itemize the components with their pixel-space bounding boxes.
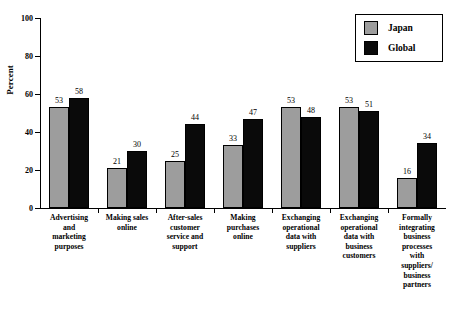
bar-japan-5[interactable] [339, 107, 359, 208]
x-axis-category-line: partners [389, 280, 445, 290]
x-axis-category-line: Exchanging [331, 213, 387, 223]
bar-value-label: 47 [249, 108, 257, 117]
x-axis-category-label: Exchangingoperationaldata withsuppliers [273, 213, 329, 251]
x-axis-category-label: Exchangingoperationaldata withbusinesscu… [331, 213, 387, 261]
bar-japan-4[interactable] [281, 107, 301, 208]
bar-japan-3[interactable] [223, 145, 243, 208]
x-axis-category-line: operational [273, 223, 329, 233]
bar-value-label: 21 [113, 157, 121, 166]
bar-value-label: 53 [345, 96, 353, 105]
y-axis-tick [35, 18, 40, 19]
bar-global-4[interactable] [301, 117, 321, 208]
x-axis-category-line: business [389, 232, 445, 242]
y-axis-tick [35, 132, 40, 133]
bar-value-label: 30 [133, 140, 141, 149]
y-axis-title: Percent [5, 40, 15, 120]
legend-swatch-japan-icon [364, 21, 378, 35]
y-axis-tick [35, 170, 40, 171]
bar-global-3[interactable] [243, 119, 263, 208]
legend-item-global: Global [364, 41, 415, 55]
y-axis-line [40, 18, 41, 208]
bar-japan-1[interactable] [107, 168, 127, 208]
x-axis-category-line: purchases [215, 223, 271, 233]
x-axis-category-line: Making sales [99, 213, 155, 223]
x-axis-category-line: processes [389, 242, 445, 252]
x-axis-category-line: suppliers/ [389, 261, 445, 271]
x-axis-category-line: online [99, 223, 155, 233]
y-axis-tick-label: 60 [25, 90, 33, 99]
bar-value-label: 51 [365, 100, 373, 109]
legend-label-japan: Japan [388, 23, 413, 33]
y-axis-tick [35, 208, 40, 209]
bar-value-label: 25 [171, 150, 179, 159]
y-axis-tick-label: 0 [29, 204, 33, 213]
bar-global-5[interactable] [359, 111, 379, 208]
x-axis-category-line: Formally [389, 213, 445, 223]
bar-value-label: 53 [287, 96, 295, 105]
x-axis-category-label: Formallyintegratingbusinessprocesseswith… [389, 213, 445, 290]
y-axis-tick [35, 94, 40, 95]
x-axis-category-line: business [389, 271, 445, 281]
bar-japan-6[interactable] [397, 178, 417, 208]
x-axis-category-line: and [41, 223, 97, 233]
bar-value-label: 53 [55, 96, 63, 105]
x-axis-category-line: online [215, 232, 271, 242]
x-axis-category-line: customer [157, 223, 213, 233]
legend: Japan Global [355, 14, 443, 62]
bar-global-0[interactable] [69, 98, 89, 208]
x-axis-category-line: Advertising [41, 213, 97, 223]
bar-global-2[interactable] [185, 124, 205, 208]
bar-japan-2[interactable] [165, 161, 185, 209]
x-axis-category-label: Making salesonline [99, 213, 155, 232]
figure-bar-chart: Percent 02040608010053582130254433475348… [0, 0, 452, 317]
x-axis-category-line: After-sales [157, 213, 213, 223]
x-axis-category-line: purposes [41, 242, 97, 252]
y-axis-tick [35, 56, 40, 57]
y-axis-tick-label: 100 [21, 14, 33, 23]
x-axis-category-line: support [157, 242, 213, 252]
legend-item-japan: Japan [364, 21, 413, 35]
x-axis-category-line: customers [331, 251, 387, 261]
x-axis-category-line: service and [157, 232, 213, 242]
bar-value-label: 16 [403, 167, 411, 176]
y-axis-tick-label: 40 [25, 128, 33, 137]
bar-value-label: 34 [423, 132, 431, 141]
x-axis-category-line: integrating [389, 223, 445, 233]
bar-japan-0[interactable] [49, 107, 69, 208]
bar-value-label: 48 [307, 106, 315, 115]
bar-value-label: 44 [191, 113, 199, 122]
x-axis-category-label: Makingpurchasesonline [215, 213, 271, 242]
x-axis-category-line: business [331, 242, 387, 252]
bar-global-6[interactable] [417, 143, 437, 208]
x-axis-category-line: with [389, 251, 445, 261]
x-axis-category-line: marketing [41, 232, 97, 242]
x-axis-category-line: operational [331, 223, 387, 233]
bar-global-1[interactable] [127, 151, 147, 208]
x-axis-category-line: data with [273, 232, 329, 242]
legend-swatch-global-icon [364, 41, 378, 55]
x-axis-category-label: After-salescustomerservice andsupport [157, 213, 213, 251]
x-axis-line [40, 208, 446, 209]
y-axis-tick-label: 20 [25, 166, 33, 175]
x-axis-category-label: Advertisingandmarketingpurposes [41, 213, 97, 251]
y-axis-tick-label: 80 [25, 52, 33, 61]
x-axis-category-line: data with [331, 232, 387, 242]
bar-value-label: 58 [75, 87, 83, 96]
legend-label-global: Global [388, 43, 415, 53]
x-axis-category-line: suppliers [273, 242, 329, 252]
x-axis-category-line: Making [215, 213, 271, 223]
x-axis-category-line: Exchanging [273, 213, 329, 223]
bar-value-label: 33 [229, 134, 237, 143]
